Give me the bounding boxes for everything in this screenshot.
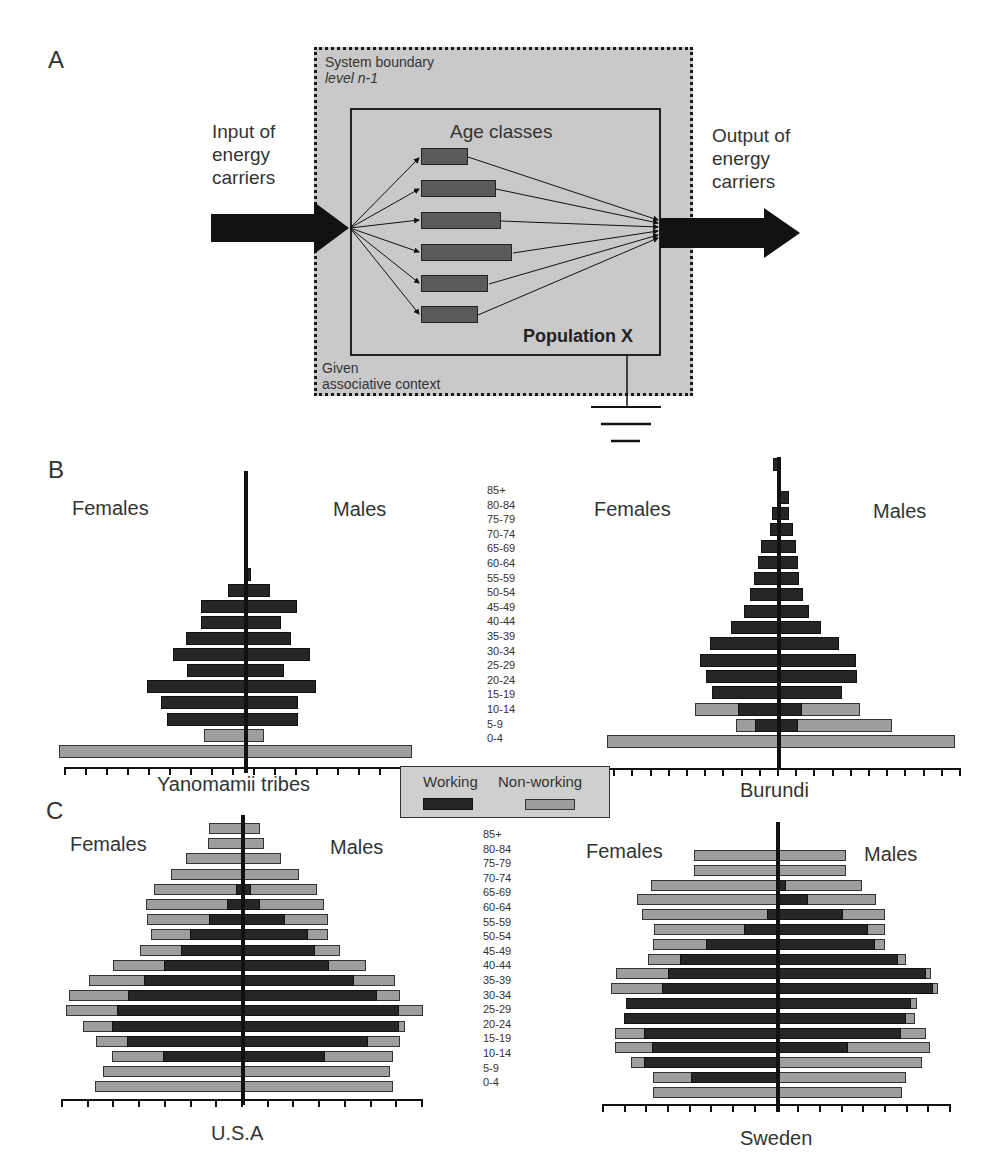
nonworking-bar xyxy=(694,850,778,861)
working-bar xyxy=(778,1013,906,1024)
working-bar xyxy=(186,632,246,645)
working-bar xyxy=(201,616,246,629)
females-label: Females xyxy=(72,497,149,520)
working-bar xyxy=(164,960,243,971)
working-bar xyxy=(731,621,779,634)
axis-tick xyxy=(904,768,906,776)
panel-c-letter: C xyxy=(46,797,63,825)
usa-title: U.S.A xyxy=(211,1122,263,1145)
working-bar xyxy=(779,686,842,699)
axis-tick xyxy=(379,767,381,775)
axis-tick xyxy=(624,1104,626,1112)
age-label: 85+ xyxy=(487,483,515,498)
axis-tick xyxy=(941,768,943,776)
age-label: 85+ xyxy=(483,827,511,842)
working-bar xyxy=(710,637,779,650)
nonworking-bar xyxy=(243,869,299,880)
age-label: 15-19 xyxy=(483,1031,511,1046)
working-bar xyxy=(680,954,778,965)
working-bar xyxy=(112,1021,243,1032)
females-label: Females xyxy=(594,498,671,521)
age-label: 35-39 xyxy=(487,629,515,644)
nonworking-bar xyxy=(607,735,779,748)
nonworking-bar xyxy=(653,1087,778,1098)
working-bar xyxy=(147,680,246,693)
working-bar xyxy=(779,621,821,634)
axis-tick xyxy=(613,768,615,776)
axis-tick xyxy=(148,767,150,775)
axis-tick xyxy=(886,768,888,776)
age-label: 65-69 xyxy=(487,541,515,556)
working-bar xyxy=(779,637,839,650)
working-bar xyxy=(779,556,798,569)
axis-tick xyxy=(631,768,633,776)
output-arrow-icon xyxy=(660,208,800,258)
age-label: 55-59 xyxy=(483,915,511,930)
working-bar xyxy=(700,654,779,667)
age-label: 40-44 xyxy=(483,958,511,973)
center-axis xyxy=(244,471,248,773)
working-bar xyxy=(246,648,310,661)
flow-diagram-svg xyxy=(0,0,1007,460)
working-bar xyxy=(778,1028,901,1039)
working-bar xyxy=(779,719,798,732)
axis-tick xyxy=(602,1104,604,1112)
working-bar xyxy=(779,654,856,667)
females-label: Females xyxy=(586,840,663,863)
working-bar xyxy=(662,983,778,994)
working-bar xyxy=(778,1042,848,1053)
x-axis xyxy=(65,767,422,769)
nonworking-bar xyxy=(778,850,846,861)
age-label: 60-64 xyxy=(487,556,515,571)
axis-tick xyxy=(710,1104,712,1112)
working-bar xyxy=(246,664,284,677)
working-bar xyxy=(181,945,243,956)
working-bar xyxy=(668,968,778,979)
age-label: 50-54 xyxy=(487,585,515,600)
working-bar xyxy=(624,1013,778,1024)
axis-tick xyxy=(906,1104,908,1112)
working-bar xyxy=(243,1021,399,1032)
age-class-bar xyxy=(421,306,478,323)
nonworking-bar xyxy=(694,865,778,876)
axis-tick xyxy=(667,1104,669,1112)
working-bar xyxy=(243,914,285,925)
age-label: 70-74 xyxy=(487,527,515,542)
legend-working-label: Working xyxy=(423,773,478,790)
working-bar xyxy=(190,929,243,940)
working-bar xyxy=(755,719,779,732)
working-bar xyxy=(778,924,868,935)
age-label: 5-9 xyxy=(483,1061,511,1076)
axis-tick xyxy=(85,767,87,775)
axis-tick xyxy=(797,1104,799,1112)
age-label: 0-4 xyxy=(487,731,515,746)
age-label: 60-64 xyxy=(483,900,511,915)
axis-tick xyxy=(927,1104,929,1112)
nonworking-bar xyxy=(246,729,264,742)
females-label: Females xyxy=(70,833,147,856)
axis-tick xyxy=(358,767,360,775)
working-bar xyxy=(778,954,898,965)
age-labels-c: 85+ 80-84 75-79 70-74 65-69 60-64 55-59 … xyxy=(483,827,511,1090)
age-label: 40-44 xyxy=(487,614,515,629)
axis-tick xyxy=(421,1099,423,1107)
age-label: 30-34 xyxy=(487,644,515,659)
nonworking-bar xyxy=(208,838,243,849)
axis-tick xyxy=(850,768,852,776)
working-bar xyxy=(243,1051,325,1062)
working-bar xyxy=(778,983,933,994)
nonworking-bar xyxy=(637,894,778,905)
fan-out-arrows xyxy=(468,157,658,315)
working-bar xyxy=(246,584,270,597)
working-bar xyxy=(779,605,809,618)
nonworking-bar xyxy=(778,1057,922,1068)
age-class-bar xyxy=(421,244,512,261)
nonworking-bar xyxy=(651,880,778,891)
axis-tick xyxy=(759,768,761,776)
age-label: 30-34 xyxy=(483,988,511,1003)
age-label: 25-29 xyxy=(487,658,515,673)
working-bar xyxy=(712,686,779,699)
males-label: Males xyxy=(873,500,926,523)
legend-working-swatch xyxy=(423,798,473,810)
age-label: 75-79 xyxy=(483,856,511,871)
